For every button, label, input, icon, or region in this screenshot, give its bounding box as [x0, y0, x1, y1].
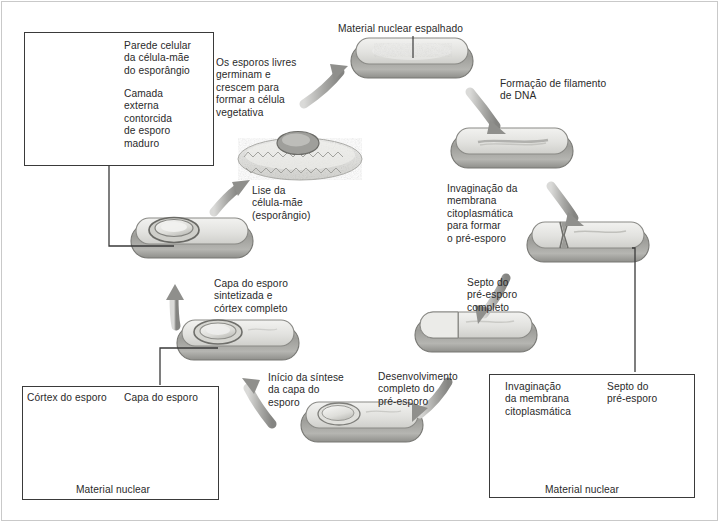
stage-label-vegetative: Material nuclear espalhado	[338, 23, 498, 35]
stage-label-invagination: Invaginação da membrana citoplasmática p…	[447, 183, 547, 245]
cell-coat-synthesis	[177, 320, 299, 360]
arrow-cortex-complete	[166, 284, 184, 326]
cell-vegetative	[351, 38, 473, 78]
inset-label-material-nuclear-left: Material nuclear	[76, 484, 186, 496]
arrow-lysis	[214, 180, 250, 212]
inset-label-parede-celular: Parede celular da célula-mãe do esporâng…	[124, 40, 216, 77]
stage-label-coat-cortex-complete: Capa do esporo sintetizada e córtex comp…	[214, 278, 334, 315]
inset-label-material-nuclear-right: Material nuclear	[545, 484, 657, 496]
inset-label-septo-pre-esporo: Septo do pré-esporo	[607, 381, 689, 406]
stage-label-coat-synthesis-start: Início da síntese da capa do esporo	[268, 372, 374, 409]
cell-septum-complete	[415, 312, 537, 352]
cell-lysis	[238, 132, 362, 181]
stage-label-prespore-developed: Desenvolvimento completo do pré-esporo	[378, 371, 482, 408]
stage-label-septum-complete: Septo do pré-esporo completo	[467, 277, 557, 314]
stage-label-lysis: Lise da célula-mãe (esporângio)	[252, 185, 352, 222]
stage-label-dna-filament: Formação de filamento de DNA	[500, 78, 640, 103]
inset-label-camada-externa: Camada externa contorcida de esporo madu…	[124, 88, 212, 150]
cell-coat-cortex-complete	[131, 218, 253, 259]
arrow-invagination	[551, 186, 584, 226]
stage-label-germination: Os esporos livres germinam e crescem par…	[216, 57, 328, 119]
connector-bottom-right-inset	[632, 248, 635, 372]
sporulation-diagram: Parede celular da célula-mãe do esporâng…	[0, 0, 723, 526]
cell-dna-filament	[451, 128, 573, 168]
inset-label-invaginacao-membrana: Invaginação da membrana citoplasmática	[505, 381, 601, 418]
inset-label-cortex-do-esporo: Córtex do esporo	[27, 392, 123, 404]
inset-label-capa-do-esporo: Capa do esporo	[124, 392, 220, 404]
